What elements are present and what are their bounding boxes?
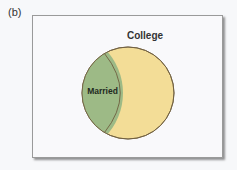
college-label: College	[100, 30, 190, 41]
married-label: Married	[80, 86, 125, 96]
venn-diagram	[0, 0, 237, 170]
